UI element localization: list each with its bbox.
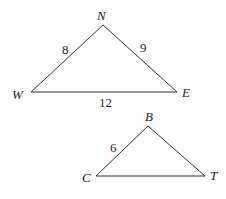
vertex-label-e: E xyxy=(182,86,190,99)
side-label-cb: 6 xyxy=(110,141,117,154)
vertex-label-n: N xyxy=(97,9,106,22)
side-label-we: 12 xyxy=(99,96,112,109)
triangles-drawing xyxy=(0,0,226,199)
side-label-wn: 8 xyxy=(62,43,69,56)
vertex-label-c: C xyxy=(82,171,91,184)
vertex-label-b: B xyxy=(145,110,153,123)
side-label-ne: 9 xyxy=(140,41,147,54)
vertex-label-t: T xyxy=(210,169,217,182)
vertex-label-w: W xyxy=(12,88,23,101)
similar-triangles-diagram: N W E 8 9 12 B C T 6 xyxy=(0,0,226,199)
triangle-nwe xyxy=(31,25,177,92)
